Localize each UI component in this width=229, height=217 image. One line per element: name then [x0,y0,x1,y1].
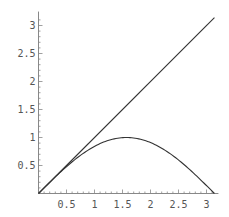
series [39,18,215,194]
series-line-sine [39,138,215,194]
x-tick-label: 1 [91,199,97,210]
x-tick-label: 2 [147,199,153,210]
y-tick-label: 0.5 [17,160,35,171]
y-tick-label: 3 [29,20,35,31]
x-tick-label: 0.5 [57,199,75,210]
chart: 0.511.522.530.511.522.53 [0,0,229,217]
series-line-identity [39,18,215,194]
x-tick-label: 3 [203,199,209,210]
y-tick-label: 1.5 [17,104,35,115]
x-tick-label: 2.5 [169,199,187,210]
y-tick-label: 1 [29,132,35,143]
y-tick-label: 2.5 [17,48,35,59]
y-tick-label: 2 [29,76,35,87]
x-tick-label: 1.5 [113,199,131,210]
